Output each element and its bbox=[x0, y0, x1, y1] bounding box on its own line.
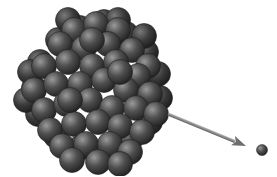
arrow-head-icon bbox=[231, 136, 248, 151]
particle-sphere-icon bbox=[257, 145, 268, 156]
diagram-canvas bbox=[0, 0, 277, 176]
nucleon bbox=[108, 60, 133, 85]
nucleon bbox=[58, 88, 83, 113]
nucleon bbox=[108, 152, 133, 177]
emission-arrow-icon bbox=[166, 109, 248, 150]
nucleon bbox=[80, 28, 105, 53]
arrow-shaft bbox=[167, 113, 235, 143]
nucleon bbox=[60, 148, 85, 173]
nucleon bbox=[56, 50, 81, 75]
nucleus-emission-diagram bbox=[0, 0, 277, 176]
emitted-particle bbox=[257, 145, 268, 156]
nucleon bbox=[86, 110, 111, 135]
nucleon bbox=[86, 150, 111, 175]
